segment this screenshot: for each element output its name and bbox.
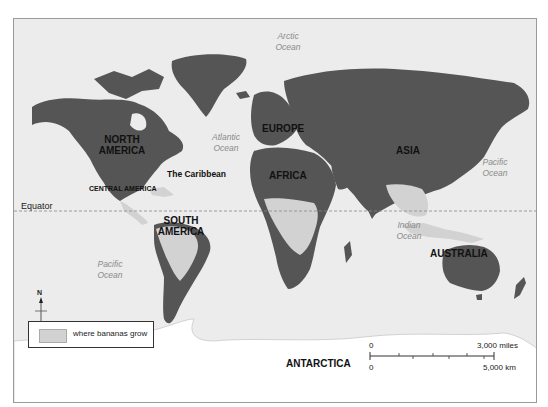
tasmania-landmass (476, 294, 482, 300)
label-asia: ASIA (396, 145, 420, 156)
label-central-america: CENTRAL AMERICA (89, 183, 157, 194)
scale-ruler (369, 351, 499, 363)
central-america-banana (120, 201, 148, 225)
equator-label: Equator (21, 201, 53, 211)
label-south-america: SOUTH AMERICA (157, 215, 205, 237)
label-pacific-ocean-west: Pacific Ocean (92, 259, 128, 281)
greenland-landmass (172, 54, 247, 117)
label-arctic-ocean: Arctic Ocean (270, 31, 306, 53)
iceland-landmass (236, 91, 250, 99)
legend-label: where bananas grow (73, 329, 147, 338)
scale-km-max: 5,000 km (483, 363, 516, 372)
new-zealand-landmass (514, 277, 526, 299)
label-africa: AFRICA (269, 170, 307, 181)
label-antarctica: ANTARCTICA (286, 358, 351, 369)
label-australia: AUSTRALIA (430, 248, 488, 259)
scale-miles-zero: 0 (369, 341, 373, 350)
label-caribbean: The Caribbean (167, 169, 226, 180)
world-map: NORTH AMERICA EUROPE AFRICA ASIA SOUTH A… (13, 18, 537, 403)
label-atlantic-ocean: Atlantic Ocean (206, 132, 246, 154)
map-legend: where bananas grow (28, 321, 154, 348)
label-indian-ocean: Indian Ocean (392, 220, 426, 242)
legend-swatch-banana (39, 329, 67, 343)
scale-km-zero: 0 (369, 363, 373, 372)
label-north-america: NORTH AMERICA (92, 134, 152, 156)
scale-bar: 0 3,000 miles 0 5,000 km (369, 341, 537, 381)
scale-miles-max: 3,000 miles (477, 341, 518, 350)
arctic-islands (94, 69, 164, 99)
madagascar-landmass (344, 241, 352, 263)
label-europe: EUROPE (262, 123, 304, 134)
label-pacific-ocean-east: Pacific Ocean (477, 157, 513, 179)
